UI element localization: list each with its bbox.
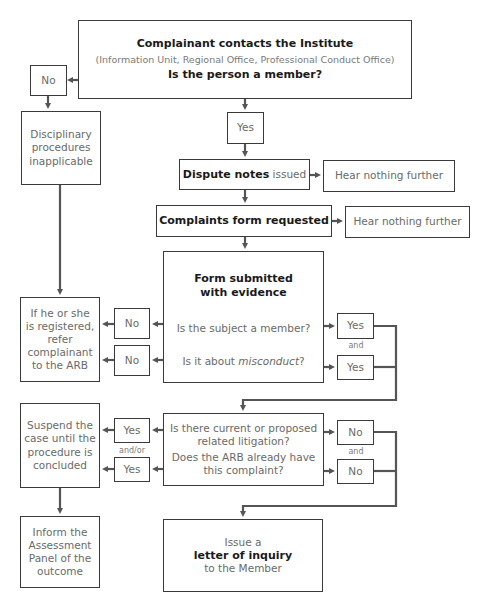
yes-misconduct-node: Yes [337,355,374,380]
and-label-1: and [336,341,376,350]
lit-q1b: related litigation? [197,435,289,448]
suspend-line: case until the [24,432,95,445]
inform-line: outcome [37,565,83,578]
complaints-form-label: Complaints form requested [159,214,329,228]
no-member-label: No [41,74,55,87]
no-arb-node: No [337,459,374,484]
yes-lit-label: Yes [124,424,141,437]
yes-member-node: Yes [227,112,264,144]
yes-arb-label: Yes [124,463,141,476]
suspend-node: Suspend the case until the procedure is … [20,403,100,488]
issue-pre: Issue a [225,536,262,549]
litigation-node: Is there current or proposed related lit… [163,413,324,486]
hear2-label: Hear nothing further [353,215,461,228]
refer-line: refer [47,333,72,346]
start-title: Complainant contacts the Institute [137,37,354,51]
disciplinary-node: Disciplinary procedures inapplicable [21,111,101,185]
start-subtitle: (Information Unit, Regional Office, Prof… [96,54,395,66]
yes-subject-label: Yes [347,319,364,332]
form-title-2: with evidence [200,286,286,300]
inform-line: Assessment [29,539,92,552]
start-question: Is the person a member? [168,68,322,82]
start-node: Complainant contacts the Institute (Info… [78,20,412,99]
issue-post: to the Member [204,562,282,575]
yes-litigation-node: Yes [114,418,150,443]
refer-line: to the ARB [32,359,88,372]
suspend-line: concluded [33,459,87,472]
suspend-line: Suspend the [27,419,93,432]
form-title-1: Form submitted [194,272,293,286]
inform-line: Panel of the [29,552,91,565]
hear1-label: Hear nothing further [335,169,443,182]
q2-em: misconduct [238,355,299,367]
refer-line: If he or she [30,307,89,320]
lit-q2a: Does the ARB already have [172,451,316,464]
refer-line: complainant [27,346,92,359]
no-misconduct-label: No [125,354,139,367]
no-subject-node: No [114,308,150,339]
inform-line: Inform the [33,526,88,539]
issue-bold: letter of inquiry [194,549,292,563]
no-member-node: No [30,65,67,96]
suspend-line: procedure is [28,446,93,459]
form-question-member: Is the subject a member? [177,322,311,335]
inform-node: Inform the Assessment Panel of the outco… [20,516,100,588]
hear-nothing-1-node: Hear nothing further [323,160,455,192]
refer-line: is registered, [26,320,94,333]
no-lit-label: No [348,426,362,439]
issue-letter-node: Issue a letter of inquiry to the Member [163,519,323,592]
dispute-rest: issued [269,168,306,181]
dispute-node: Dispute notes issued [179,159,310,190]
no-arb-label: No [348,465,362,478]
yes-subject-node: Yes [337,313,374,339]
yes-member-label: Yes [237,121,254,134]
q2-pre: Is it about [182,355,238,367]
disciplinary-line: procedures [32,141,91,154]
andor-label: and/or [112,446,152,455]
refer-node: If he or she is registered, refer compla… [20,297,100,382]
form-submitted-node: Form submitted with evidence Is the subj… [163,251,324,383]
yes-misconduct-label: Yes [347,361,364,374]
disciplinary-line: inapplicable [29,155,92,168]
no-subject-label: No [125,317,139,330]
lit-q1a: Is there current or proposed [170,422,317,435]
no-misconduct-node: No [114,345,150,376]
dispute-bold: Dispute notes [183,168,269,182]
and-label-2: and [336,447,376,456]
complaints-form-node: Complaints form requested [156,205,332,237]
form-question-misconduct: Is it about misconduct? [182,355,304,368]
yes-arb-node: Yes [114,457,150,482]
no-litigation-node: No [337,420,374,445]
disciplinary-line: Disciplinary [30,128,91,141]
q2-post: ? [299,355,305,367]
hear-nothing-2-node: Hear nothing further [345,206,470,238]
lit-q2b: this complaint? [203,464,283,477]
